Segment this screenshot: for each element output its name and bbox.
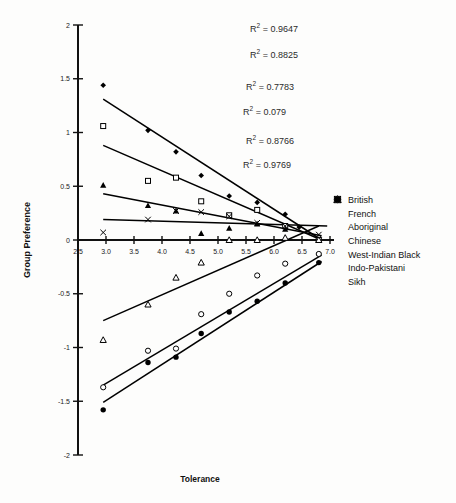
- chart-legend: BritishFrenchAboriginalChineseWest-India…: [331, 194, 420, 289]
- regression-line: [103, 194, 321, 236]
- legend-item-label: Aboriginal: [348, 223, 388, 232]
- r-squared-value: 0.9647: [270, 24, 298, 34]
- r-squared-label: R2 = 0.9647: [250, 22, 298, 34]
- legend-item-french[interactable]: French: [331, 208, 420, 222]
- legend-item-label: Chinese: [348, 237, 381, 246]
- point-marker: [283, 280, 288, 285]
- point-marker: [173, 354, 178, 359]
- point-marker: [198, 259, 204, 265]
- legend-item-british[interactable]: British: [331, 194, 420, 208]
- point-marker: [173, 274, 179, 280]
- r-squared-value: 0.7783: [266, 82, 294, 92]
- filled-circle-icon: [331, 277, 344, 288]
- x-axis-tick-label: 4.5: [185, 248, 195, 255]
- r-squared-value: 0.079: [263, 107, 286, 117]
- point-marker: [145, 348, 150, 353]
- r-squared-label: R2 = 0.9769: [243, 158, 291, 170]
- point-marker: [226, 193, 232, 199]
- point-marker: [100, 230, 106, 236]
- point-marker: [100, 82, 106, 88]
- legend-item-label: Indo-Pakistani: [348, 264, 405, 273]
- point-marker: [198, 230, 204, 236]
- legend-item-aboriginal[interactable]: Aboriginal: [331, 221, 420, 235]
- point-marker: [101, 124, 106, 129]
- y-axis-tick-label: -2: [64, 452, 70, 459]
- y-axis-tick-label: 0: [66, 237, 70, 244]
- point-marker: [145, 128, 151, 134]
- x-axis-tick-label: 3.5: [129, 248, 139, 255]
- x-axis-tick-label: 5.0: [213, 248, 223, 255]
- legend-item-label: West-Indian Black: [348, 251, 420, 260]
- point-marker: [226, 225, 232, 231]
- filled-triangle-icon: [331, 222, 344, 233]
- x-axis-tick-label: 4.0: [157, 248, 167, 255]
- y-axis-title: Group Preference: [22, 202, 32, 278]
- r-squared-label: R2 = 0.7783: [246, 80, 294, 92]
- point-marker: [173, 149, 179, 155]
- point-marker: [227, 291, 232, 296]
- point-marker: [198, 173, 204, 179]
- legend-item-west-indian-black[interactable]: West-Indian Black: [331, 248, 420, 262]
- chart-figure: 21.510.50-0.5-1-1.5-22.53.03.54.04.55.05…: [0, 0, 456, 503]
- x-axis-tick-label: 6.0: [269, 248, 279, 255]
- r-squared-label: R2 = 0.8825: [250, 48, 298, 60]
- point-marker: [282, 235, 288, 241]
- open-circle-icon: [331, 263, 344, 274]
- point-marker: [334, 196, 341, 203]
- r-squared-value: 0.9769: [263, 160, 291, 170]
- point-marker: [199, 199, 204, 204]
- x-axis-tick-label: 3.0: [101, 248, 111, 255]
- point-marker: [227, 309, 232, 314]
- point-marker: [101, 407, 106, 412]
- y-axis-tick-label: 2: [66, 22, 70, 29]
- points-aboriginal: [100, 182, 322, 243]
- y-axis-tick-label: -1: [64, 344, 70, 351]
- legend-item-label: French: [348, 210, 376, 219]
- y-axis-tick-label: 1.5: [60, 75, 70, 82]
- open-triangle-icon: [331, 250, 344, 261]
- legend-item-indo-pakistani[interactable]: Indo-Pakistani: [331, 262, 420, 276]
- open-square-icon: [331, 209, 344, 220]
- regression-line: [103, 262, 321, 403]
- y-axis-tick-label: -1.5: [58, 398, 70, 405]
- legend-item-label: Sikh: [348, 278, 366, 287]
- point-marker: [173, 346, 178, 351]
- point-marker: [282, 211, 288, 217]
- regression-line: [103, 255, 321, 385]
- point-marker: [101, 385, 106, 390]
- point-marker: [255, 207, 260, 212]
- point-marker: [100, 337, 106, 343]
- series-sikh: [103, 262, 321, 403]
- x-axis-tick-label: 6.5: [297, 248, 307, 255]
- r-squared-value: 0.8766: [266, 136, 294, 146]
- point-marker: [145, 360, 150, 365]
- point-marker: [255, 273, 260, 278]
- point-marker: [316, 260, 321, 265]
- point-marker: [283, 261, 288, 266]
- point-marker: [100, 182, 106, 188]
- r-squared-label: R2 = 0.079: [243, 105, 286, 117]
- point-marker: [199, 312, 204, 317]
- y-axis-tick-label: -0.5: [58, 290, 70, 297]
- legend-item-sikh[interactable]: Sikh: [331, 276, 420, 290]
- x-axis-tick-label: 2.5: [73, 248, 83, 255]
- legend-item-label: British: [348, 196, 373, 205]
- point-marker: [174, 175, 179, 180]
- r-squared-label: R2 = 0.8766: [246, 134, 294, 146]
- r-squared-value: 0.8825: [270, 50, 298, 60]
- point-marker: [199, 331, 204, 336]
- series-indo-pakistani: [103, 255, 321, 385]
- y-axis-tick-label: 0.5: [60, 183, 70, 190]
- x-axis-tick-label: 5.5: [241, 248, 251, 255]
- x-cross-icon: [331, 236, 344, 247]
- x-axis-title: Tolerance: [180, 474, 220, 484]
- legend-item-chinese[interactable]: Chinese: [331, 235, 420, 249]
- point-marker: [146, 178, 151, 183]
- point-marker: [316, 251, 321, 256]
- y-axis-tick-label: 1: [66, 129, 70, 136]
- point-marker: [255, 299, 260, 304]
- series-aboriginal: [103, 194, 321, 236]
